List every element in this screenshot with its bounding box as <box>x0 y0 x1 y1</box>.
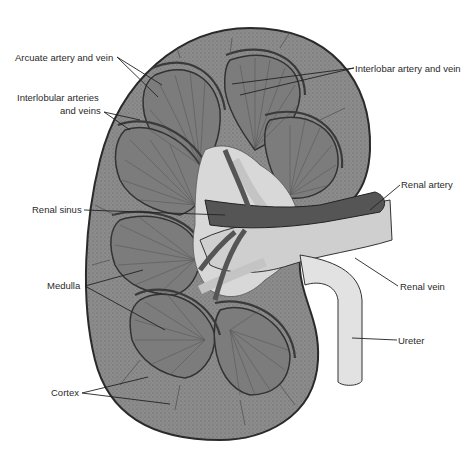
label-arcuate-artery-vein: Arcuate artery and vein <box>15 52 113 63</box>
label-interlobular-line2: and veins <box>60 105 101 116</box>
label-renal-vein: Renal vein <box>400 281 445 292</box>
label-ureter: Ureter <box>398 335 424 346</box>
label-renal-artery: Renal artery <box>401 179 453 190</box>
label-renal-sinus: Renal sinus <box>32 204 82 215</box>
label-medulla: Medulla <box>47 280 80 291</box>
label-cortex: Cortex <box>51 387 79 398</box>
label-interlobar-artery-vein: Interlobar artery and vein <box>355 63 461 74</box>
label-interlobular-line1: Interlobular arteries <box>17 92 99 103</box>
